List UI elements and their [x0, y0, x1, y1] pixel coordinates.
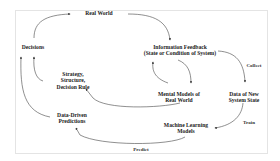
edge-info-feedback-to-mental-models: [178, 60, 191, 83]
node-data-driven-predictions: Data-Driven Predictions: [57, 112, 87, 125]
edge-label-collect: Collect: [247, 63, 262, 68]
node-machine-learning-models: Machine Learning Models: [164, 122, 208, 135]
edge-info-feedback-to-data-state: [218, 51, 245, 82]
edge-label-train: Train: [243, 120, 255, 125]
diagram-edges: [0, 0, 280, 161]
edge-predictions-to-decisions: [21, 57, 50, 117]
edge-data-state-to-ml-models: [215, 103, 243, 128]
node-information-feedback: Information Feedback (State or Condition…: [144, 44, 216, 57]
node-data-new-system-state: Data of New System State: [229, 91, 260, 104]
node-strategy: Strategy, Structure, Decision Rule: [57, 71, 90, 90]
edge-mental-models-to-info-feedback: [153, 62, 168, 83]
edge-strategy-to-decisions: [34, 57, 43, 81]
node-mental-models: Mental Models of Real World: [158, 91, 200, 104]
edge-real-world-to-info-feedback: [128, 14, 170, 40]
node-decisions: Decisions: [22, 44, 44, 50]
node-real-world: Real World: [85, 10, 112, 16]
edge-decisions-to-real-world: [34, 14, 70, 38]
edge-label-predict: Predict: [133, 147, 148, 152]
